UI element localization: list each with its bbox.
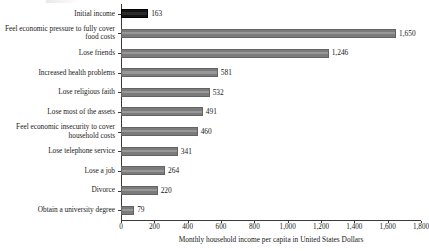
- bar-row: 581: [121, 63, 421, 83]
- y-axis-tick: [118, 53, 121, 54]
- y-axis-tick: [118, 171, 121, 172]
- bar-row: 1,650: [121, 24, 421, 44]
- bar-row: 220: [121, 181, 421, 201]
- bar-row: 79: [121, 200, 421, 220]
- bar-row: 341: [121, 141, 421, 161]
- scan-artifact: [46, 0, 80, 3]
- plot-area: 1631,6501,24658153249146034126422079: [121, 4, 421, 220]
- bar-row: 163: [121, 4, 421, 24]
- y-axis-category-label: Lose most of the assets: [0, 108, 115, 116]
- x-axis-line: [121, 220, 421, 221]
- bar: [121, 127, 198, 136]
- y-axis-tick: [118, 210, 121, 211]
- y-axis-category-label: Divorce: [0, 186, 115, 194]
- y-axis-tick: [118, 112, 121, 113]
- y-axis-category-label: Obtain a university degree: [0, 206, 115, 214]
- x-axis-tick-label: 1,200: [313, 224, 329, 231]
- bar-value-label: 163: [151, 10, 162, 17]
- x-axis-tick-label: 400: [182, 224, 193, 231]
- x-axis-tick-label: 1,000: [280, 224, 296, 231]
- x-axis-tick-label: 1,400: [346, 224, 362, 231]
- bar-chart: Initial incomeFeel economic pressure to …: [0, 0, 429, 251]
- y-axis-category-label: Increased health problems: [0, 69, 115, 77]
- bar: [121, 147, 178, 156]
- x-axis-tick-label: 0: [119, 224, 123, 231]
- bar-row: 1,246: [121, 43, 421, 63]
- x-axis-tick-label: 800: [249, 224, 260, 231]
- y-axis-tick: [118, 73, 121, 74]
- y-axis-tick: [118, 151, 121, 152]
- x-axis-tick-label: 200: [149, 224, 160, 231]
- bar: [121, 29, 396, 38]
- y-axis-tick: [118, 92, 121, 93]
- y-axis-category-label: Lose telephone service: [0, 147, 115, 155]
- bar-row: 264: [121, 161, 421, 181]
- bar-value-label: 264: [168, 167, 179, 174]
- y-axis-category-label: Initial income: [0, 10, 115, 18]
- y-axis-category-label: Lose friends: [0, 49, 115, 57]
- bar-value-label: 341: [181, 148, 192, 155]
- bar: [121, 68, 218, 77]
- x-axis-tick-label: 1,600: [380, 224, 396, 231]
- y-axis-category-label: Lose religious faith: [0, 88, 115, 96]
- bar-value-label: 1,246: [332, 49, 349, 56]
- y-axis-tick: [118, 33, 121, 34]
- bar-value-label: 532: [213, 89, 224, 96]
- bar-value-label: 460: [201, 128, 212, 135]
- x-axis-tick-label: 1,800: [413, 224, 429, 231]
- y-axis-category-label: Feel economic pressure to fully cover fo…: [0, 25, 115, 42]
- bar: [121, 166, 165, 175]
- bar-value-label: 79: [137, 206, 144, 213]
- y-axis-tick: [118, 14, 121, 15]
- bar-row: 460: [121, 122, 421, 142]
- y-axis-tick: [118, 191, 121, 192]
- bar: [121, 88, 210, 97]
- y-axis-category-label: Feel economic insecurity to cover househ…: [0, 123, 115, 140]
- y-axis-category-labels: Initial incomeFeel economic pressure to …: [0, 4, 118, 220]
- bar: [121, 107, 203, 116]
- bar-value-label: 491: [206, 108, 217, 115]
- bar: [121, 49, 329, 58]
- bar: [121, 186, 158, 195]
- y-axis-category-label: Lose a job: [0, 167, 115, 175]
- x-axis-title: Monthly household income per capita in U…: [121, 236, 421, 243]
- y-axis-tick: [118, 132, 121, 133]
- bar-value-label: 1,650: [399, 30, 416, 37]
- bar: [121, 206, 134, 215]
- bar-value-label: 220: [161, 187, 172, 194]
- bar-row: 532: [121, 83, 421, 103]
- bar-value-label: 581: [221, 69, 232, 76]
- bar-row: 491: [121, 102, 421, 122]
- x-axis-tick-label: 600: [216, 224, 227, 231]
- bar: [121, 9, 148, 18]
